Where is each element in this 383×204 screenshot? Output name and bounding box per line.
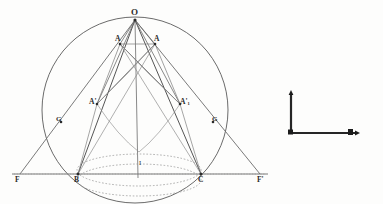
label-C: C bbox=[198, 176, 203, 184]
ray-O-A1 bbox=[135, 20, 155, 44]
label-O: O bbox=[131, 8, 138, 17]
point-A bbox=[119, 43, 122, 46]
ray-O-Aprime1 bbox=[135, 20, 180, 104]
scale-horizontal-arrow-icon bbox=[355, 131, 360, 136]
chord-A1-B bbox=[78, 44, 155, 174]
chord-A-Aprime bbox=[97, 44, 120, 104]
label-Aprime-mid-left: A' bbox=[89, 98, 97, 106]
label-Fprime: F' bbox=[257, 176, 264, 184]
arc-Aprime-axis bbox=[97, 104, 139, 152]
scale-vertical-arrow-icon bbox=[289, 90, 294, 95]
chord-A-C bbox=[120, 44, 201, 174]
ray-O-Aprime bbox=[97, 20, 135, 104]
point-O bbox=[133, 18, 136, 21]
label-Aprime1-mid-right: A'1 bbox=[180, 98, 190, 106]
label-G-right: G bbox=[212, 116, 217, 123]
label-Aprime1-base: A' bbox=[180, 97, 188, 106]
cone-side-O-C bbox=[135, 20, 201, 174]
scale-end-marker bbox=[348, 129, 353, 135]
chord-A1-Aprime bbox=[97, 44, 155, 104]
diagram-canvas bbox=[0, 0, 383, 204]
segment-Aprime-B bbox=[78, 104, 97, 174]
label-F: F bbox=[15, 176, 20, 184]
geometry-figure: O A A A' A'1 B C F F' G G I bbox=[0, 0, 383, 204]
label-I-center: I bbox=[139, 160, 141, 167]
label-Aprime1-subscript: 1 bbox=[188, 101, 190, 106]
base-ellipse-lower bbox=[77, 164, 201, 196]
label-A-upper-right: A bbox=[154, 35, 159, 43]
label-A-upper-left: A bbox=[115, 35, 120, 43]
cone-side-O-B bbox=[78, 20, 135, 174]
tangent-line-O-F bbox=[20, 20, 135, 174]
label-G-left: G bbox=[56, 116, 61, 123]
point-A1 bbox=[154, 43, 157, 46]
segment-Aprime1-C bbox=[180, 104, 201, 174]
scale-corner-marker bbox=[288, 130, 293, 135]
label-B: B bbox=[74, 176, 79, 184]
